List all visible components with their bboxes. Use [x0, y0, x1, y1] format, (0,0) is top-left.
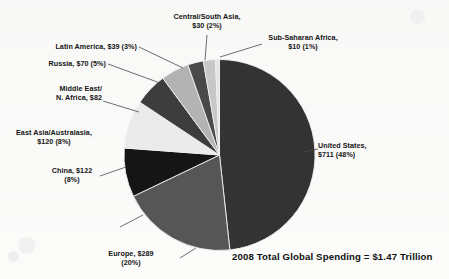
pie-slice-group: United States, $711 (48%)Europe, $289 (2…	[124, 59, 315, 250]
pie-slice-united-states[interactable]: United States, $711 (48%)	[220, 59, 316, 249]
label-sub-saharan-africa: Sub-Saharan Africa, $10 (1%)	[254, 33, 352, 51]
label-china-line1: China, $122	[26, 166, 118, 175]
label-east-asia-line2: $120 (8%)	[8, 137, 100, 146]
label-east-asia-australasia: East Asia/Australasia, $120 (8%)	[8, 128, 100, 146]
label-united-states-line1: United States,	[318, 141, 367, 150]
leader-line-china	[120, 215, 143, 227]
leader-line-latin-america	[139, 47, 183, 68]
label-latin-america: Latin America, $39 (3%)	[24, 42, 137, 51]
label-central-south-asia-line2: $30 (2%)	[160, 21, 254, 30]
label-united-states: United States, $711 (48%)	[318, 141, 367, 159]
label-latin-america-line1: Latin America, $39 (3%)	[24, 42, 137, 51]
label-china-line2: (8%)	[26, 175, 118, 184]
label-central-south-asia: Central/South Asia, $30 (2%)	[160, 12, 254, 30]
label-middle-east-line2: N. Africa, $82	[14, 93, 102, 102]
label-russia-line1: Russia, $70 (5%)	[14, 59, 106, 68]
label-china: China, $122 (8%)	[26, 166, 118, 184]
label-middle-east-line1: Middle East/	[14, 84, 102, 93]
leader-line-middle-east	[103, 101, 139, 112]
label-europe-line1: Europe, $289	[82, 249, 180, 258]
chart-page: United States, $711 (48%)Europe, $289 (2…	[0, 0, 449, 279]
label-east-asia-line1: East Asia/Australasia,	[8, 128, 100, 137]
label-europe-line2: (20%)	[82, 258, 180, 267]
label-sub-saharan-line2: $10 (1%)	[254, 42, 352, 51]
label-united-states-line2: $711 (48%)	[318, 150, 367, 159]
label-central-south-asia-line1: Central/South Asia,	[160, 12, 254, 21]
label-europe: Europe, $289 (20%)	[82, 249, 180, 267]
label-middle-east-n-africa: Middle East/ N. Africa, $82	[14, 84, 102, 102]
leader-line-central-south-asia	[205, 35, 207, 60]
label-sub-saharan-line1: Sub-Saharan Africa,	[254, 33, 352, 42]
leader-line-russia	[108, 64, 160, 83]
leader-line-europe	[180, 248, 196, 258]
label-russia: Russia, $70 (5%)	[14, 59, 106, 68]
total-spending-caption: 2008 Total Global Spending = $1.47 Trill…	[232, 251, 433, 262]
